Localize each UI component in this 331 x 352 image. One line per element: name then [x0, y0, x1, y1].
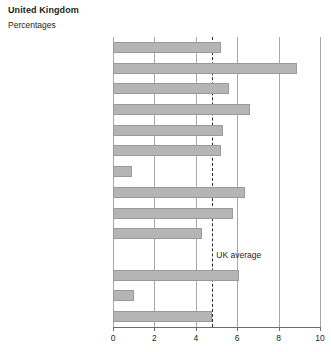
bar: [113, 290, 134, 301]
uk-average-label: UK average: [216, 250, 261, 260]
chart-container: United Kingdom Percentages 0246810 Engla…: [0, 0, 331, 352]
gridline-10: [320, 37, 321, 327]
x-tick-4: [196, 327, 197, 331]
gridline-2: [154, 37, 155, 327]
bar: [113, 83, 229, 94]
bar: [113, 270, 239, 281]
gridline-8: [279, 37, 280, 327]
x-tick-label-6: 6: [235, 333, 240, 343]
chart-subtitle: Percentages: [8, 20, 56, 30]
bar: [113, 187, 245, 198]
x-tick-8: [279, 327, 280, 331]
bar-row: Scotland4: [0, 290, 331, 301]
bar-row: South West: [0, 228, 331, 239]
plot-area: [113, 37, 320, 327]
x-tick-10: [320, 327, 321, 331]
bar-row: Greater London3: [0, 187, 331, 198]
bar-row: Northern Ireland3: [0, 311, 331, 322]
x-tick-label-10: 10: [315, 333, 324, 343]
bar: [113, 63, 297, 74]
x-tick-2: [154, 327, 155, 331]
gridline-0: [113, 37, 114, 327]
page-title: United Kingdom: [8, 5, 79, 15]
x-tick-label-8: 8: [276, 333, 281, 343]
bar: [113, 208, 233, 219]
uk-average-line: [212, 37, 213, 327]
bar: [113, 228, 202, 239]
x-axis-line: [113, 327, 321, 328]
gridline-6: [237, 37, 238, 327]
bar-row: England: [0, 42, 331, 53]
x-tick-label-0: 0: [111, 333, 116, 343]
bar-row: Wales: [0, 270, 331, 281]
bar: [113, 145, 221, 156]
bar: [113, 42, 221, 53]
bar: [113, 311, 212, 322]
x-tick-6: [237, 327, 238, 331]
x-tick-label-2: 2: [152, 333, 157, 343]
bar: [113, 125, 223, 136]
bar-row: Northern: [0, 63, 331, 74]
bar-row: North West: [0, 83, 331, 94]
bar-row: West Midlands: [0, 145, 331, 156]
bar: [113, 166, 132, 177]
x-tick-label-4: 4: [193, 333, 198, 343]
bar: [113, 104, 250, 115]
x-tick-0: [113, 327, 114, 331]
bar-row: East Midlands: [0, 125, 331, 136]
gridline-4: [196, 37, 197, 327]
bar-row: East Anglia3: [0, 166, 331, 177]
bar-row: Yorkshire and Humberside: [0, 104, 331, 115]
bar-row: South East: [0, 208, 331, 219]
